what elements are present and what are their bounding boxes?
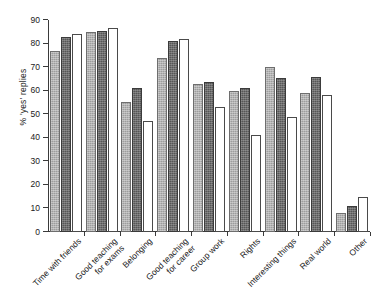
y-axis-tick: 60	[43, 90, 48, 91]
bar	[311, 77, 321, 232]
x-axis-label: Other	[347, 236, 369, 258]
y-axis-tick-label: 90	[31, 15, 40, 25]
y-axis-tick-label: 0	[35, 227, 40, 237]
y-axis-tick-label: 20	[31, 179, 40, 189]
bar	[97, 31, 107, 232]
x-axis-labels: Time with friendsGood teaching for exams…	[48, 236, 382, 305]
y-axis-tick-label: 70	[31, 62, 40, 72]
plot-area: 0102030405060708090	[48, 20, 370, 232]
y-axis-tick-label: 60	[31, 85, 40, 95]
y-axis-tick: 10	[43, 207, 48, 208]
bar	[322, 95, 332, 232]
y-axis-line	[48, 20, 49, 232]
bar	[358, 197, 368, 232]
y-axis-tick: 80	[43, 43, 48, 44]
y-axis-tick-label: 80	[31, 38, 40, 48]
y-axis-tick-label: 10	[31, 203, 40, 213]
y-axis-tick: 0	[43, 231, 48, 232]
y-axis-tick: 70	[43, 66, 48, 67]
bar-group	[336, 20, 368, 232]
x-axis-label: Real world	[298, 236, 333, 271]
y-axis-tick: 30	[43, 160, 48, 161]
bar	[157, 58, 167, 232]
x-axis-label: Time with friends	[31, 236, 83, 288]
y-axis-tick-label: 30	[31, 156, 40, 166]
bar-chart: % 'yes' replies 0102030405060708090 Time…	[0, 0, 382, 305]
bar-group	[265, 20, 297, 232]
bar	[251, 135, 261, 232]
bar	[287, 117, 297, 232]
bar-group	[86, 20, 118, 232]
y-axis-title: % 'yes' replies	[18, 27, 28, 167]
bar	[143, 121, 153, 232]
bar	[265, 67, 275, 232]
y-axis-tick-label: 50	[31, 109, 40, 119]
bar	[347, 206, 357, 232]
bar	[300, 93, 310, 232]
bar-group	[50, 20, 82, 232]
bar	[179, 39, 189, 232]
x-axis-label: Rights	[238, 236, 262, 260]
bar	[86, 32, 96, 232]
bar	[50, 51, 60, 232]
bar	[215, 107, 225, 232]
bar-group	[157, 20, 189, 232]
bar-group	[121, 20, 153, 232]
bar	[336, 213, 346, 232]
bar	[108, 28, 118, 232]
y-axis-tick: 90	[43, 19, 48, 20]
y-axis-tick: 50	[43, 113, 48, 114]
bar	[276, 78, 286, 232]
bar-group	[229, 20, 261, 232]
bar	[132, 88, 142, 232]
y-axis-tick-label: 40	[31, 132, 40, 142]
x-axis-label: Group work	[188, 236, 226, 274]
bar-group	[193, 20, 225, 232]
bar	[72, 34, 82, 232]
x-axis-label: Belonging	[121, 236, 155, 270]
bar	[61, 37, 71, 233]
bar-group	[300, 20, 332, 232]
y-axis-tick: 20	[43, 184, 48, 185]
y-axis-tick: 40	[43, 137, 48, 138]
bar	[168, 41, 178, 232]
bar	[229, 91, 239, 232]
bar	[193, 84, 203, 232]
bar	[121, 102, 131, 232]
bar	[204, 82, 214, 232]
bar	[240, 88, 250, 232]
